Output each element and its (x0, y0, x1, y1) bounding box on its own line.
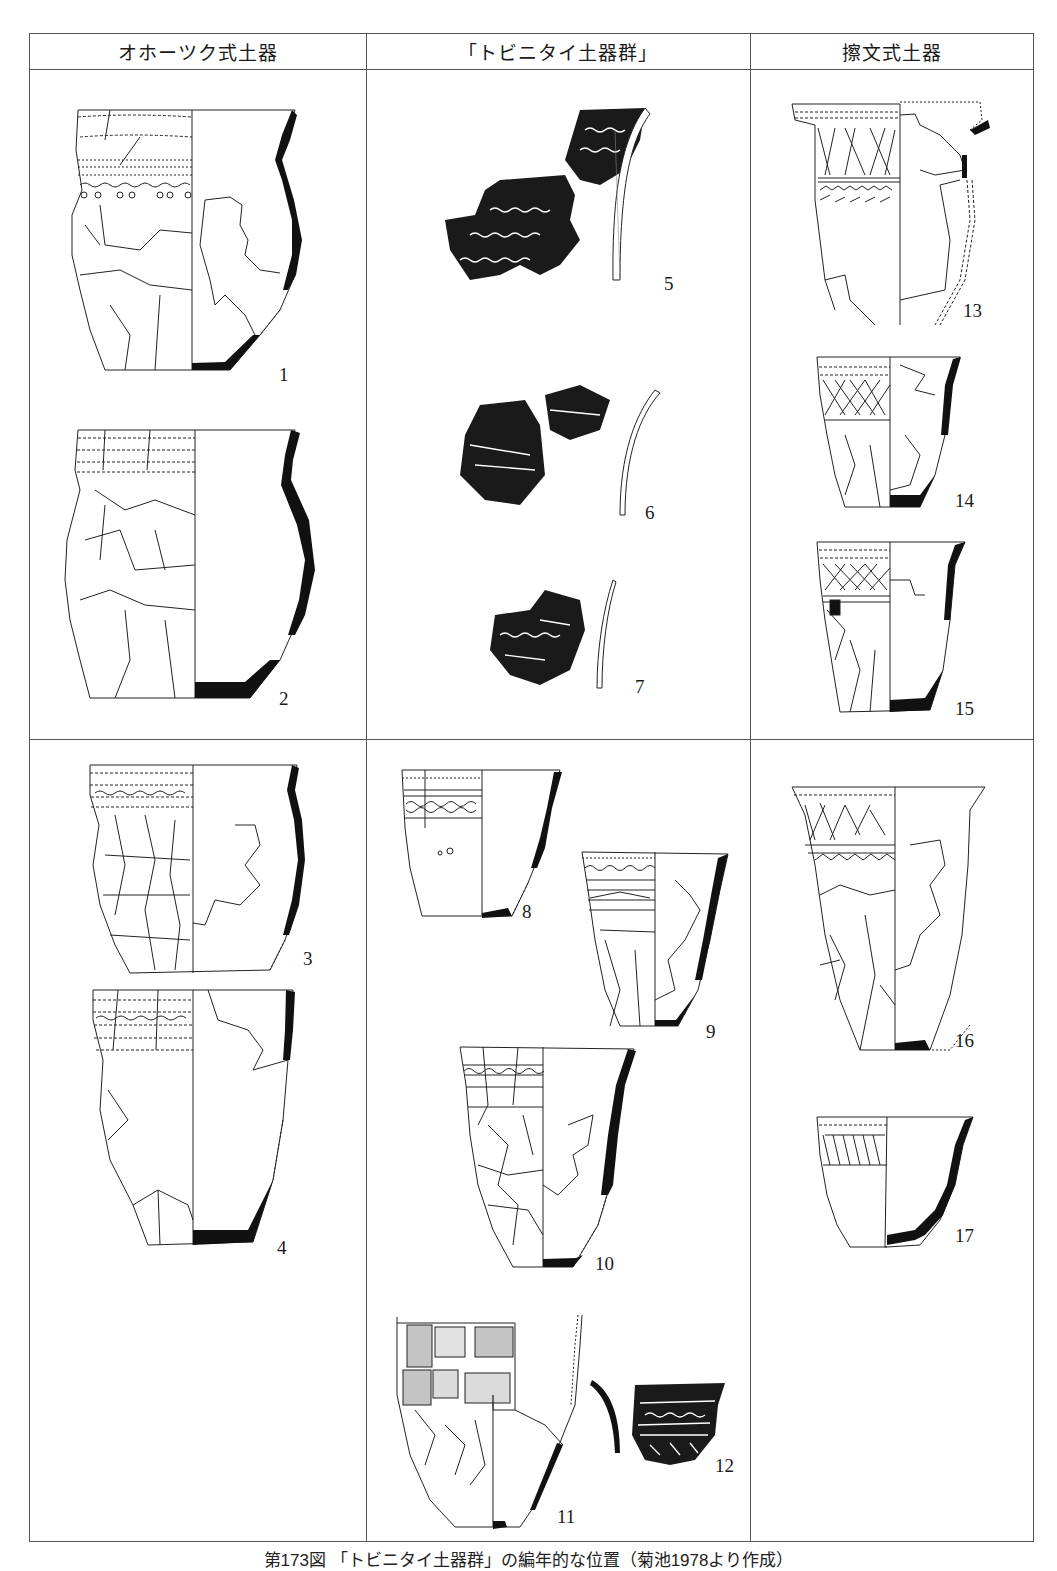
figure-caption: 第173図 「トビニタイ土器群」の編年的な位置（菊池1978より作成） (0, 1546, 1057, 1571)
vessel-drawing-14 (815, 355, 970, 515)
figure-number-3: 3 (303, 948, 313, 970)
figure-number-7: 7 (635, 676, 645, 698)
figure-number-2: 2 (279, 688, 289, 710)
figure-number-1: 1 (279, 364, 289, 386)
vessel-drawing-1 (70, 105, 310, 380)
figure-number-9: 9 (706, 1021, 716, 1043)
figure-number-11: 11 (557, 1506, 575, 1528)
header-tobinitai: 「トビニタイ土器群」 (366, 33, 750, 69)
figure-number-5: 5 (664, 273, 674, 295)
figure-number-16: 16 (955, 1030, 974, 1052)
figure-number-15: 15 (955, 698, 974, 720)
column-divider-2 (750, 33, 751, 1542)
header-divider (29, 69, 1034, 70)
header-okhotsk: オホーツク式土器 (29, 33, 366, 69)
vessel-drawing-16 (790, 785, 990, 1055)
figure-number-13: 13 (963, 300, 982, 322)
vessel-drawing-15 (815, 540, 970, 720)
vessel-drawing-8 (400, 768, 565, 918)
vessel-drawing-11 (395, 1315, 595, 1530)
header-satsumon: 擦文式土器 (750, 33, 1034, 69)
figure-number-10: 10 (595, 1253, 614, 1275)
column-divider-1 (366, 33, 367, 1542)
vessel-drawing-4 (88, 990, 303, 1255)
figure-number-17: 17 (955, 1225, 974, 1247)
vessel-drawing-10 (458, 1045, 638, 1270)
vessel-drawing-9 (580, 850, 730, 1030)
vessel-drawing-3 (85, 765, 310, 975)
vessel-drawing-17 (815, 1115, 975, 1255)
sherd-rubbing-6 (450, 385, 670, 530)
row-divider (29, 739, 1034, 740)
figure-number-4: 4 (277, 1237, 287, 1259)
figure-number-12: 12 (715, 1455, 734, 1477)
vessel-drawing-2 (65, 430, 315, 702)
figure-number-6: 6 (645, 502, 655, 524)
sherd-rubbing-7 (485, 580, 625, 695)
figure-number-14: 14 (955, 490, 974, 512)
figure-number-8: 8 (522, 901, 532, 923)
sherd-rubbing-5 (440, 100, 680, 320)
vessel-drawing-13 (790, 100, 990, 330)
